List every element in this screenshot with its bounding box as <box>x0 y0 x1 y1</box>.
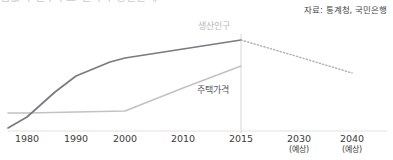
series-label-housing: 주택가격 <box>197 85 229 96</box>
x-tick-label-4: 2015 <box>229 133 253 144</box>
x-tick-1: 1990 <box>64 133 88 145</box>
x-tick-label-6: 2040 <box>340 133 364 144</box>
x-tick-3: 2010 <box>171 133 195 145</box>
series-line-production-forecast <box>241 40 352 73</box>
x-axis-ticks: 1980 1990 2000 2010 2015 2030 (예상) 2040 … <box>0 133 393 160</box>
x-tick-0: 1980 <box>15 133 39 145</box>
x-tick-label-5: 2030 <box>287 133 311 144</box>
x-tick-label-2: 2000 <box>113 133 137 144</box>
x-tick-label-1: 1990 <box>64 133 88 144</box>
series-line-production <box>8 40 241 128</box>
series-label-production: 생산인구 <box>198 21 230 32</box>
x-tick-6: 2040 (예상) <box>340 133 364 155</box>
x-tick-label-3: 2010 <box>171 133 195 144</box>
x-tick-5: 2030 (예상) <box>287 133 311 155</box>
x-tick-label-0: 1980 <box>15 133 39 144</box>
x-tick-sub-5: (예상) <box>287 145 311 155</box>
x-tick-sub-6: (예상) <box>340 145 364 155</box>
x-tick-2: 2000 <box>113 133 137 145</box>
x-tick-4: 2015 <box>229 133 253 145</box>
